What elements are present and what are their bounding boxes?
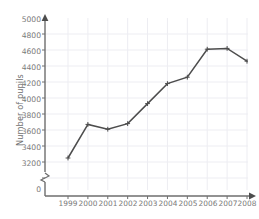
series-line — [68, 48, 247, 158]
series-markers — [66, 46, 248, 160]
data-series-number-of-pupils — [45, 18, 248, 190]
line-chart: Number of pupils 5000 4800 4600 4400 420… — [0, 0, 259, 219]
x-tick-label: 2008 — [234, 199, 259, 208]
plot-area — [45, 18, 248, 190]
